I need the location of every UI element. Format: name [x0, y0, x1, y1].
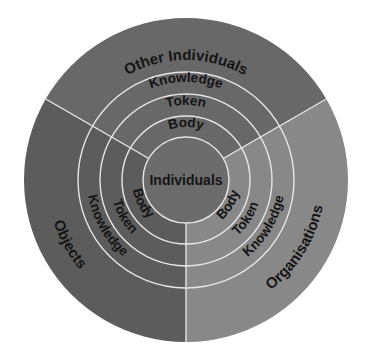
- ring-label-top-body: Body: [167, 115, 206, 133]
- concentric-diagram: Individuals Other Individuals Knowledge …: [0, 0, 371, 359]
- center-label: Individuals: [149, 172, 222, 188]
- ring-label-top-token: Token: [164, 93, 207, 110]
